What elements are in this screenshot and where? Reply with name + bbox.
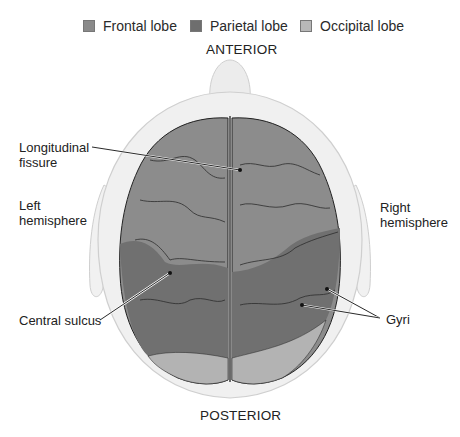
left-hemisphere-line2: hemisphere xyxy=(19,213,87,228)
gyri-label: Gyri xyxy=(386,312,410,327)
posterior-label: POSTERIOR xyxy=(200,408,281,423)
left-hemisphere-label: Left hemisphere xyxy=(19,198,87,228)
longitudinal-fissure-line2: fissure xyxy=(19,155,89,170)
longitudinal-fissure-line1: Longitudinal xyxy=(19,140,89,155)
anterior-label: ANTERIOR xyxy=(206,42,277,57)
longitudinal-fissure-label: Longitudinal fissure xyxy=(19,140,89,170)
right-hemisphere-line2: hemisphere xyxy=(380,215,448,230)
central-sulcus-label: Central sulcus xyxy=(19,313,101,328)
right-hemisphere-line1: Right xyxy=(380,200,448,215)
left-hemisphere-line1: Left xyxy=(19,198,87,213)
right-hemisphere-label: Right hemisphere xyxy=(380,200,448,230)
